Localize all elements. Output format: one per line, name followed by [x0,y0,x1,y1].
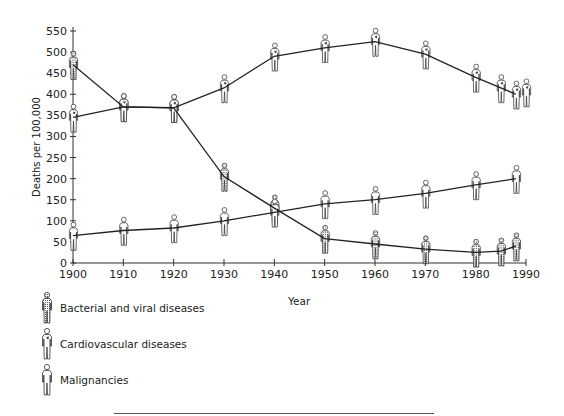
y-tick-label: 200 [46,173,67,186]
legend-label: Cardiovascular diseases [60,338,187,350]
series-line [73,65,516,253]
legend: Bacterial and viral diseases Cardiovascu… [40,290,205,398]
x-tick-label: 1980 [462,268,490,281]
x-tick-label: 1940 [260,268,288,281]
y-tick-label: 150 [46,194,67,207]
series-line [73,179,516,236]
x-tick-label: 1950 [311,268,339,281]
y-tick-label: 250 [46,152,67,165]
data-point-figure [69,104,77,132]
data-point-figure [522,79,530,107]
x-tick-label: 1920 [160,268,188,281]
legend-item-cardiovascular: Cardiovascular diseases [40,326,205,362]
y-tick-label: 350 [46,109,67,122]
y-tick-label: 450 [46,67,67,80]
outline-person-icon [40,363,54,397]
line-chart: 0501001502002503003504004505005501900191… [0,0,564,290]
shaded-person-icon [40,291,54,325]
y-tick-label: 400 [46,88,67,101]
footer-divider [114,413,434,414]
legend-item-bacterial: Bacterial and viral diseases [40,290,205,326]
legend-label: Bacterial and viral diseases [60,302,205,314]
data-markers [69,28,530,267]
y-tick-label: 50 [53,236,67,249]
data-point-figure [69,222,77,250]
y-tick-label: 100 [46,215,67,228]
series-lines [73,42,516,253]
axes: 0501001502002503003504004505005501900191… [46,25,540,281]
y-tick-label: 500 [46,46,67,59]
x-axis-label: Year [288,295,310,307]
x-tick-label: 1930 [210,268,238,281]
x-tick-label: 1970 [411,268,439,281]
series-line [73,42,516,118]
data-point-figure [472,239,480,267]
x-tick-label: 1910 [109,268,137,281]
x-tick-label: 1960 [361,268,389,281]
y-tick-label: 550 [46,25,67,38]
y-tick-label: 300 [46,130,67,143]
x-tick-label: 1900 [59,268,87,281]
data-point-figure [271,43,279,71]
heart-person-icon [40,327,54,361]
data-point-figure [512,81,520,109]
x-tick-label: 1990 [512,268,540,281]
legend-item-malignancies: Malignancies [40,362,205,398]
legend-label: Malignancies [60,374,128,386]
y-axis-label: Deaths per 100,000 [31,97,42,197]
